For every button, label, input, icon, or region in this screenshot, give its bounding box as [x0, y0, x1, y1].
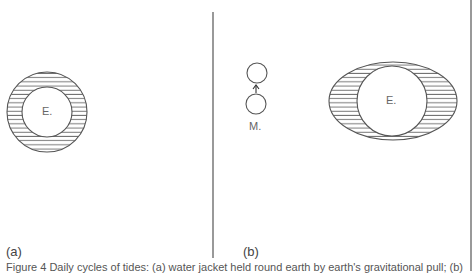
moon-label: M.	[249, 121, 261, 132]
figure-caption: Figure 4 Daily cycles of tides: (a) wate…	[6, 262, 463, 273]
panel-b-label: (b)	[243, 245, 259, 258]
earth-label-a: E.	[42, 106, 52, 117]
moon-circle-top	[247, 63, 267, 83]
panel-a-label: (a)	[6, 245, 22, 258]
earth-label-b: E.	[386, 95, 396, 106]
panel-b-moon-diagram	[246, 63, 267, 114]
arrow-up-icon	[253, 85, 259, 93]
moon-circle-bottom	[246, 94, 266, 114]
